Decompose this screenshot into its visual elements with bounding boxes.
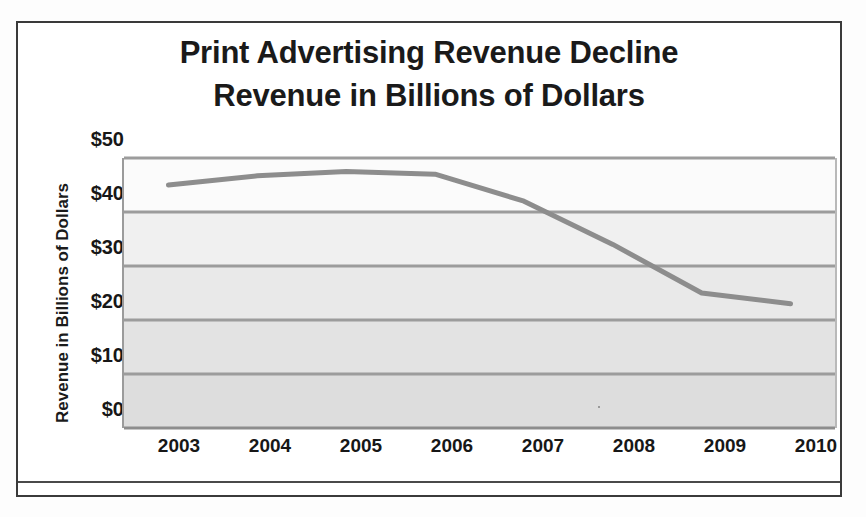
y-tick-label-30: $30 [68,236,124,259]
y-axis-tick-labels: $50 $40 $30 $20 $10 $0 [68,139,124,419]
chart-title-line-1: Print Advertising Revenue Decline [16,31,842,74]
x-tick-label-2007: 2007 [498,435,588,457]
x-tick-label-2010: 2010 [771,435,861,457]
chart-title-line-2: Revenue in Billions of Dollars [16,74,842,117]
revenue-polyline [168,172,790,304]
y-tick-label-10: $10 [68,344,124,367]
page-bottom-rule [18,481,840,483]
x-tick-label-2003: 2003 [134,435,224,457]
x-tick-label-2005: 2005 [316,435,406,457]
chart-title-block: Print Advertising Revenue Decline Revenu… [16,31,842,117]
x-tick-label-2008: 2008 [589,435,679,457]
x-tick-label-2009: 2009 [680,435,770,457]
x-tick-label-2004: 2004 [225,435,315,457]
y-tick-label-0: $0 [68,398,124,421]
y-tick-label-40: $40 [68,182,124,205]
plot-area [122,158,837,428]
chart-figure: Print Advertising Revenue Decline Revenu… [16,21,842,481]
x-tick-label-2006: 2006 [407,435,497,457]
y-tick-label-20: $20 [68,290,124,313]
scanned-page: Print Advertising Revenue Decline Revenu… [0,0,866,517]
y-tick-label-50: $50 [68,128,124,151]
x-axis-tick-labels: 2003 2004 2005 2006 2007 2008 2009 2010 [122,435,833,465]
revenue-line-series [124,158,835,428]
